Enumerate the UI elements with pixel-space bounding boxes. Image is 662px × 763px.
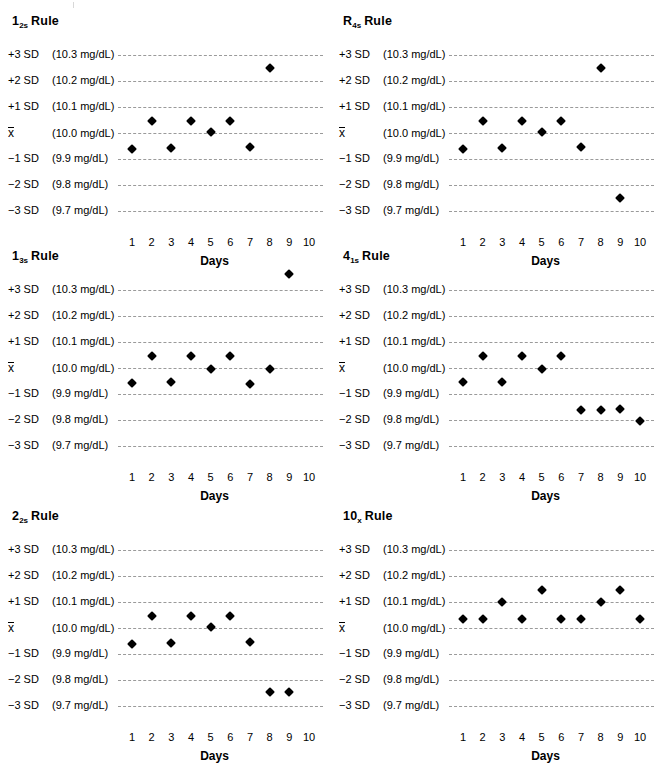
- y-axis-label: +3 SD(10.3 mg/dL): [339, 544, 451, 555]
- y-axis-sd-value: (9.9 mg/dL): [52, 153, 120, 164]
- data-point: [284, 269, 294, 279]
- y-axis-sd-name: +3 SD: [8, 284, 52, 295]
- gridline-minus3sd: [118, 211, 323, 212]
- x-axis-title-text: Days: [531, 749, 560, 763]
- y-axis-sd-value: (9.8 mg/dL): [52, 674, 120, 685]
- y-axis-sd-name: −2 SD: [8, 414, 52, 425]
- gridline-plus3sd: [118, 55, 323, 56]
- y-axis-sd-value: (9.9 mg/dL): [383, 648, 451, 659]
- y-axis-sd-name: +3 SD: [339, 49, 383, 60]
- data-point: [517, 614, 527, 624]
- gridline-plus1sd: [118, 342, 323, 343]
- x-axis-tick: 10: [629, 731, 651, 743]
- plot-area: +3 SD(10.3 mg/dL)+2 SD(10.2 mg/dL)+1 SD(…: [0, 525, 331, 725]
- chart-panel: 41sRule+3 SD(10.3 mg/dL)+2 SD(10.2 mg/dL…: [331, 243, 662, 486]
- data-point: [517, 351, 527, 361]
- gridline-plus1sd: [449, 342, 654, 343]
- data-point: [537, 128, 547, 138]
- gridline-plus3sd: [449, 290, 654, 291]
- y-axis-label: x(10.0 mg/dL): [8, 127, 120, 138]
- y-axis-sd-name: −1 SD: [8, 388, 52, 399]
- y-axis-sd-name: +2 SD: [339, 570, 383, 581]
- data-point: [225, 611, 235, 621]
- chart-title-word: Rule: [362, 249, 390, 263]
- y-axis-label: x(10.0 mg/dL): [339, 622, 451, 633]
- data-point: [478, 351, 488, 361]
- y-axis-sd-name: −1 SD: [8, 153, 52, 164]
- y-axis-sd-value: (10.3 mg/dL): [383, 49, 451, 60]
- y-axis-label: −3 SD(9.7 mg/dL): [8, 205, 120, 216]
- chart-title-word: Rule: [364, 14, 392, 28]
- y-axis-sd-name: +1 SD: [8, 336, 52, 347]
- gridline-plus1sd: [449, 602, 654, 603]
- chart-title-subscript: 2s: [19, 21, 28, 30]
- x-bar-symbol: x: [339, 362, 345, 374]
- x-axis-tick: 10: [629, 471, 651, 483]
- y-axis-sd-name: −3 SD: [339, 440, 383, 451]
- y-axis-sd-value: (10.1 mg/dL): [383, 101, 451, 112]
- chart-title: 22sRule: [12, 509, 59, 523]
- y-axis-sd-value: (9.7 mg/dL): [383, 440, 451, 451]
- x-bar-symbol: x: [8, 127, 14, 139]
- chart-title-subscript: 1s: [350, 256, 359, 265]
- y-axis-sd-value: (9.9 mg/dL): [52, 388, 120, 399]
- y-axis-sd-value: (9.7 mg/dL): [52, 700, 120, 711]
- y-axis-sd-value: (9.8 mg/dL): [383, 414, 451, 425]
- y-axis-label: +1 SD(10.1 mg/dL): [339, 336, 451, 347]
- y-axis-sd-value: (10.1 mg/dL): [52, 596, 120, 607]
- x-bar-symbol: x: [8, 622, 14, 634]
- data-point: [127, 144, 137, 154]
- y-axis-sd-name: −2 SD: [8, 179, 52, 190]
- data-point: [635, 416, 645, 426]
- data-point: [497, 377, 507, 387]
- chart-title-base: 10: [343, 509, 357, 523]
- data-point: [596, 63, 606, 73]
- y-axis-sd-value: (10.3 mg/dL): [52, 544, 120, 555]
- gridline-minus2sd: [118, 185, 323, 186]
- y-axis-sd-name: +2 SD: [8, 310, 52, 321]
- y-axis-sd-value: (10.1 mg/dL): [52, 101, 120, 112]
- data-point: [478, 614, 488, 624]
- chart-title-word: Rule: [365, 509, 393, 523]
- y-axis-sd-name: −1 SD: [339, 153, 383, 164]
- y-axis-sd-name: x: [8, 127, 52, 139]
- y-axis-label: −2 SD(9.8 mg/dL): [339, 414, 451, 425]
- y-axis-sd-name: +3 SD: [339, 284, 383, 295]
- data-point: [127, 639, 137, 649]
- y-axis-sd-value: (10.0 mg/dL): [52, 623, 120, 634]
- data-point: [478, 116, 488, 126]
- y-axis-sd-value: (10.0 mg/dL): [383, 623, 451, 634]
- data-point: [458, 377, 468, 387]
- y-axis-sd-value: (9.9 mg/dL): [52, 648, 120, 659]
- y-axis-label: −1 SD(9.9 mg/dL): [8, 388, 120, 399]
- data-point: [556, 116, 566, 126]
- x-axis-tick: 10: [298, 471, 320, 483]
- data-point: [596, 597, 606, 607]
- data-point: [166, 143, 176, 153]
- chart-title: 13sRule: [12, 249, 59, 263]
- chart-title-subscript: 3s: [19, 256, 28, 265]
- y-axis-label: +3 SD(10.3 mg/dL): [339, 284, 451, 295]
- gridline-plus3sd: [449, 550, 654, 551]
- chart-title: 10xRule: [343, 509, 393, 523]
- y-axis-label: +3 SD(10.3 mg/dL): [8, 544, 120, 555]
- chart-panel: 10xRule+3 SD(10.3 mg/dL)+2 SD(10.2 mg/dL…: [331, 503, 662, 746]
- data-point: [206, 128, 216, 138]
- y-axis-sd-value: (10.2 mg/dL): [383, 75, 451, 86]
- data-point: [517, 116, 527, 126]
- gridline-mean: [449, 133, 654, 134]
- data-point: [186, 351, 196, 361]
- x-bar-symbol: x: [339, 127, 345, 139]
- y-axis-sd-name: −1 SD: [339, 648, 383, 659]
- y-axis-sd-value: (9.7 mg/dL): [52, 440, 120, 451]
- gridline-minus1sd: [449, 654, 654, 655]
- y-axis-sd-value: (10.1 mg/dL): [383, 596, 451, 607]
- data-point: [127, 378, 137, 388]
- y-axis-sd-value: (10.0 mg/dL): [383, 363, 451, 374]
- gridline-minus3sd: [449, 446, 654, 447]
- y-axis-sd-value: (10.3 mg/dL): [52, 284, 120, 295]
- y-axis-sd-name: −2 SD: [339, 414, 383, 425]
- y-axis-sd-value: (10.0 mg/dL): [52, 363, 120, 374]
- gridline-plus3sd: [449, 55, 654, 56]
- gridline-minus2sd: [449, 420, 654, 421]
